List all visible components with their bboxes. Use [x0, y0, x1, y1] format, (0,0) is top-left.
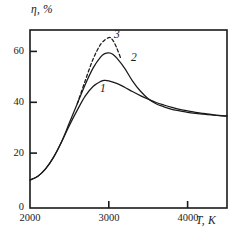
y-axis-title: η, % [31, 3, 53, 15]
y-tick-label-0: 0 [2, 201, 24, 212]
y-tick-label-60: 60 [2, 45, 24, 56]
curve-3 [77, 37, 120, 103]
x-axis-ticks [109, 201, 188, 208]
curve-1 [30, 80, 227, 180]
x-tick-label-3000: 3000 [89, 212, 129, 223]
curve-label-2: 2 [131, 51, 137, 63]
curve-label-1: 1 [100, 82, 106, 94]
x-tick-label-4000: 4000 [168, 212, 208, 223]
plot-frame [30, 30, 227, 208]
curve-2 [30, 53, 227, 180]
y-tick-label-40: 40 [2, 96, 24, 107]
y-axis-ticks [30, 51, 37, 153]
curve-label-3: 3 [114, 28, 120, 40]
chart-figure: η, % T, K 60 40 20 0 2000 3000 4000 1 2 … [0, 0, 240, 240]
y-tick-label-20: 20 [2, 147, 24, 158]
plot-area [0, 0, 240, 240]
x-tick-label-2000: 2000 [10, 212, 50, 223]
